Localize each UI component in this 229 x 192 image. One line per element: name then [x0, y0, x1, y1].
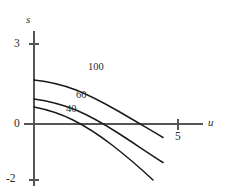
plot-canvas — [0, 0, 229, 192]
y-axis-name-label: s — [26, 14, 30, 25]
curve-100 — [34, 80, 163, 138]
curve-60 — [34, 99, 163, 163]
x-tick-label-5: 5 — [175, 131, 181, 143]
curve-label-40: 40 — [66, 104, 77, 115]
curve-label-100: 100 — [88, 62, 104, 73]
y-tick-label-3: 3 — [14, 38, 20, 50]
x-axis-name-label: u — [208, 117, 214, 128]
curves-group — [34, 80, 163, 180]
y-tick-label-0: 0 — [14, 118, 20, 130]
figure-container: s u 3 0 -2 5 100 60 40 — [0, 0, 229, 192]
curve-label-60: 60 — [76, 90, 87, 101]
y-tick-label-minus2: -2 — [6, 173, 16, 185]
